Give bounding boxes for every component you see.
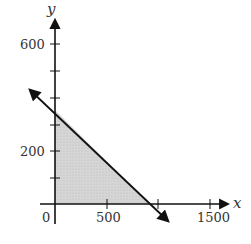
feasible-region-graph: y x 600 200 0 500 1500 xyxy=(0,0,251,244)
origin-label: 0 xyxy=(42,210,50,225)
y-tick-label-600: 600 xyxy=(20,37,45,52)
x-tick-label-500: 500 xyxy=(96,210,121,225)
x-tick-label-1500: 1500 xyxy=(197,210,230,225)
y-axis-label: y xyxy=(46,0,56,18)
x-axis-label: x xyxy=(233,194,242,212)
y-tick-label-200: 200 xyxy=(20,144,45,159)
